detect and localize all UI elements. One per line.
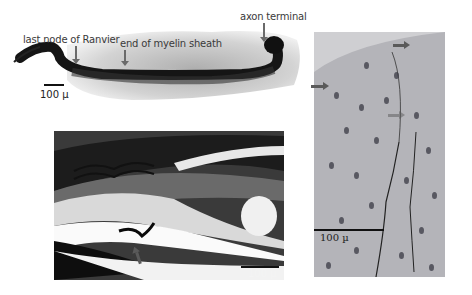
cell-nucleus [432,192,437,199]
cell-nucleus [414,112,419,119]
cell-nucleus [404,177,409,184]
tissue-section-image [54,131,284,280]
arrow-right-top [393,44,405,47]
arrow-right-left-edge [311,85,324,88]
arrow-myelin-end [124,50,126,62]
cell-nucleus [394,72,399,79]
cell-nucleus [329,162,334,169]
cell-nucleus [419,227,424,234]
arrow-node-of-ranvier [75,46,77,60]
cell-nucleus [384,97,389,104]
cell-nucleus [429,264,434,271]
scale-bar-right [314,229,384,231]
cell-nucleus [369,202,374,209]
arrow-right-middle [388,114,400,117]
scale-label-right: 100 µ [320,232,349,243]
cell-nucleus [426,147,431,154]
arrow-axon-terminal [263,23,265,38]
scale-label-top: 100 µ [40,89,69,100]
cell-nucleus [364,62,369,69]
scale-label-bottom-left: 100 µ [248,268,277,279]
label-last-node-of-ranvier: last node of Ranvier [23,34,119,45]
cell-nucleus [326,262,331,269]
cell-nucleus [334,92,339,99]
cell-nucleus [339,217,344,224]
cell-nucleus [354,247,359,254]
cell-nucleus [399,252,404,259]
micrograph-bottom-left-tissue [54,131,284,280]
scale-bar-top [44,84,64,86]
cell-nucleus [359,104,364,111]
cell-nucleus [354,172,359,179]
cell-nucleus [344,127,349,134]
cell-nucleus [374,137,379,144]
label-end-of-myelin-sheath: end of myelin sheath [120,38,222,49]
label-axon-terminal: axon terminal [240,11,307,22]
